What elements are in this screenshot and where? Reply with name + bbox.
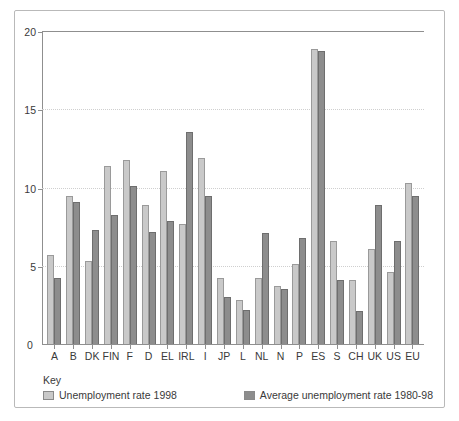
bar-ch-series-1: [349, 280, 356, 344]
x-axis-tick-mark-a: [54, 344, 55, 349]
bar-dk-series-2: [92, 230, 99, 344]
bar-group-dk: DK: [83, 32, 102, 344]
x-axis-tick-label-n: N: [277, 351, 285, 362]
bar-nl-series-2: [262, 233, 269, 344]
bar-el-series-2: [167, 221, 174, 344]
bar-group-b: B: [64, 32, 83, 344]
y-axis-tick-mark-20: [38, 32, 42, 33]
bar-irl-series-1: [179, 224, 186, 344]
x-axis-tick-mark-ch: [356, 344, 357, 349]
bar-jp-series-1: [217, 278, 224, 344]
bar-group-i: I: [196, 32, 215, 344]
chart-figure: 5101520 ABDKFINFDELIRLIJPLNLNPESSCHUKUSE…: [14, 10, 445, 408]
x-axis-tick-mark-f: [130, 344, 131, 349]
x-axis-tick-label-a: A: [51, 351, 58, 362]
x-axis-tick-mark-fin: [111, 344, 112, 349]
bar-group-ch: CH: [347, 32, 366, 344]
bar-nl-series-1: [255, 278, 262, 344]
bar-group-uk: UK: [365, 32, 384, 344]
bar-p-series-2: [299, 238, 306, 344]
bar-group-a: A: [45, 32, 64, 344]
bar-f-series-2: [130, 186, 137, 344]
bar-series-container: ABDKFINFDELIRLIJPLNLNPESSCHUKUSEU: [43, 32, 424, 344]
bar-l-series-2: [243, 310, 250, 344]
x-axis-tick-mark-irl: [186, 344, 187, 349]
x-axis-tick-label-f: F: [127, 351, 133, 362]
x-axis-tick-label-ch: CH: [348, 351, 363, 362]
y-axis-tick-mark-15: [38, 110, 42, 111]
bar-l-series-1: [236, 300, 243, 344]
bar-d-series-1: [142, 205, 149, 344]
bar-group-nl: NL: [252, 32, 271, 344]
bar-i-series-2: [205, 196, 212, 344]
chart-legend: Key Unemployment rate 1998 Average unemp…: [43, 375, 433, 401]
x-axis-tick-mark-el: [167, 344, 168, 349]
x-axis-tick-label-uk: UK: [367, 351, 382, 362]
x-axis-tick-label-es: ES: [311, 351, 325, 362]
bar-group-irl: IRL: [177, 32, 196, 344]
x-axis-tick-label-nl: NL: [255, 351, 268, 362]
x-axis-tick-mark-p: [299, 344, 300, 349]
bar-uk-series-2: [375, 205, 382, 344]
bar-us-series-2: [394, 241, 401, 344]
y-axis-tick-label-15: 15: [24, 105, 36, 116]
bar-group-p: P: [290, 32, 309, 344]
x-axis-tick-mark-n: [281, 344, 282, 349]
x-axis-tick-label-irl: IRL: [178, 351, 194, 362]
plot-area: 5101520 ABDKFINFDELIRLIJPLNLNPESSCHUKUSE…: [42, 32, 424, 345]
legend-swatch-icon-dark: [244, 391, 255, 400]
x-axis-tick-label-s: S: [334, 351, 341, 362]
bar-jp-series-2: [224, 297, 231, 344]
x-axis-tick-label-i: I: [204, 351, 207, 362]
bar-group-l: L: [233, 32, 252, 344]
x-axis-tick-label-fin: FIN: [102, 351, 119, 362]
x-axis-tick-mark-nl: [262, 344, 263, 349]
x-axis-tick-mark-b: [73, 344, 74, 349]
bar-group-s: S: [328, 32, 347, 344]
x-axis-tick-mark-dk: [92, 344, 93, 349]
bar-eu-series-2: [412, 196, 419, 344]
x-axis-tick-label-el: EL: [161, 351, 174, 362]
y-axis-tick-mark-10: [38, 189, 42, 190]
y-axis-tick-label-20: 20: [24, 27, 36, 38]
x-axis-tick-label-b: B: [70, 351, 77, 362]
bar-s-series-2: [337, 280, 344, 344]
bar-n-series-2: [281, 289, 288, 344]
y-axis-tick-label-zero: 0: [27, 340, 33, 351]
bar-group-eu: EU: [403, 32, 422, 344]
x-axis-tick-label-l: L: [240, 351, 246, 362]
bar-s-series-1: [330, 241, 337, 344]
bar-group-us: US: [384, 32, 403, 344]
legend-items: Unemployment rate 1998 Average unemploym…: [43, 390, 433, 402]
x-axis-tick-mark-s: [337, 344, 338, 349]
bar-us-series-1: [387, 272, 394, 344]
x-axis-tick-label-us: US: [386, 351, 401, 362]
bar-irl-series-2: [186, 132, 193, 344]
legend-label-average-unemployment-1980-98: Average unemployment rate 1980-98: [260, 390, 433, 402]
x-axis-tick-label-p: P: [296, 351, 303, 362]
bar-a-series-1: [47, 255, 54, 344]
x-axis-tick-mark-uk: [375, 344, 376, 349]
y-axis-tick-mark-5: [38, 267, 42, 268]
bar-group-n: N: [271, 32, 290, 344]
x-axis-tick-mark-l: [243, 344, 244, 349]
bar-fin-series-2: [111, 215, 118, 344]
x-axis-tick-mark-i: [205, 344, 206, 349]
legend-item-unemployment-1998: Unemployment rate 1998: [43, 390, 244, 402]
bar-b-series-1: [66, 196, 73, 344]
bar-group-d: D: [139, 32, 158, 344]
x-axis-tick-mark-eu: [412, 344, 413, 349]
bar-p-series-1: [292, 264, 299, 344]
bar-n-series-1: [274, 286, 281, 344]
bar-a-series-2: [54, 278, 61, 344]
x-axis-tick-mark-es: [318, 344, 319, 349]
bar-f-series-1: [123, 160, 130, 344]
bar-el-series-1: [160, 171, 167, 344]
bar-group-fin: FIN: [102, 32, 121, 344]
x-axis-tick-label-d: D: [145, 351, 153, 362]
legend-title: Key: [43, 375, 433, 387]
bar-group-jp: JP: [215, 32, 234, 344]
bar-b-series-2: [73, 202, 80, 344]
bar-group-es: ES: [309, 32, 328, 344]
bar-d-series-2: [149, 232, 156, 344]
